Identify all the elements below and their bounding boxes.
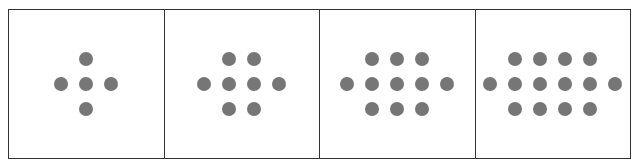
pattern-panel-2 <box>165 10 321 158</box>
dot <box>247 52 261 66</box>
dot <box>79 52 93 66</box>
dot <box>365 52 379 66</box>
dot <box>390 77 404 91</box>
dot <box>508 77 522 91</box>
dot <box>533 77 547 91</box>
dot <box>54 77 68 91</box>
dot <box>415 102 429 116</box>
dot <box>440 77 454 91</box>
dot <box>558 102 572 116</box>
dot <box>390 52 404 66</box>
dot <box>222 102 236 116</box>
dot <box>558 77 572 91</box>
dot <box>365 102 379 116</box>
dot <box>79 102 93 116</box>
dot <box>533 52 547 66</box>
dot <box>608 77 622 91</box>
dot <box>365 77 379 91</box>
dot <box>508 102 522 116</box>
dot <box>340 77 354 91</box>
dot <box>390 102 404 116</box>
dot <box>533 102 547 116</box>
dot <box>197 77 211 91</box>
dot <box>508 52 522 66</box>
dot <box>483 77 497 91</box>
dot <box>222 52 236 66</box>
dot <box>222 77 236 91</box>
dot <box>247 77 261 91</box>
pattern-panel-3 <box>320 10 476 158</box>
dot <box>79 77 93 91</box>
dot <box>583 102 597 116</box>
dot <box>583 52 597 66</box>
dot <box>415 52 429 66</box>
dot <box>583 77 597 91</box>
dot <box>415 77 429 91</box>
dot <box>247 102 261 116</box>
dot <box>558 52 572 66</box>
pattern-panel-1 <box>9 10 165 158</box>
dot <box>272 77 286 91</box>
pattern-frame <box>8 9 631 159</box>
dot <box>104 77 118 91</box>
pattern-panel-4 <box>476 10 631 158</box>
